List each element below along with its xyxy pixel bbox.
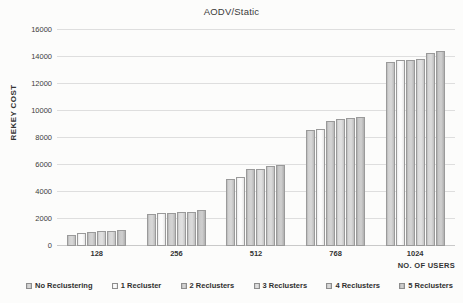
- legend-swatch-icon: [112, 283, 118, 289]
- bar[interactable]: [386, 62, 395, 246]
- bar[interactable]: [97, 231, 106, 246]
- bar[interactable]: [147, 214, 156, 246]
- bar[interactable]: [326, 121, 335, 246]
- bar[interactable]: [236, 177, 245, 246]
- legend-item[interactable]: 1 Recluster: [112, 281, 161, 290]
- legend-swatch-icon: [326, 283, 332, 289]
- bar[interactable]: [256, 169, 265, 246]
- plot-area: 0200040006000800010000120001400016000: [57, 30, 455, 246]
- y-axis-title: REKEY COST: [9, 73, 18, 153]
- bar[interactable]: [316, 129, 325, 246]
- legend-item[interactable]: 3 Reclusters: [254, 281, 308, 290]
- bar[interactable]: [117, 230, 126, 246]
- bar[interactable]: [246, 169, 255, 246]
- y-axis-tick-label: 14000: [31, 52, 52, 61]
- y-axis-tick-label: 4000: [35, 187, 52, 196]
- legend-label: 2 Reclusters: [190, 281, 235, 290]
- y-axis-tick-label: 0: [48, 241, 52, 250]
- chart-title: AODV/Static: [0, 6, 463, 17]
- legend-swatch-icon: [254, 283, 260, 289]
- bar-group-256: [137, 30, 217, 246]
- y-axis-tick-label: 6000: [35, 160, 52, 169]
- x-axis-tick-label: 128: [57, 249, 137, 258]
- bar[interactable]: [187, 212, 196, 246]
- bar[interactable]: [177, 212, 186, 246]
- bar[interactable]: [77, 233, 86, 246]
- bar[interactable]: [197, 210, 206, 246]
- legend-label: No Reclustering: [35, 281, 93, 290]
- x-axis-tick-labels: 1282565127681024: [57, 249, 455, 258]
- y-axis-tick-label: 12000: [31, 79, 52, 88]
- legend-item[interactable]: No Reclustering: [26, 281, 93, 290]
- bar[interactable]: [436, 51, 445, 246]
- bar-group-128: [57, 30, 137, 246]
- chart-container: AODV/Static REKEY COST 02000400060008000…: [0, 0, 463, 303]
- bar[interactable]: [167, 213, 176, 246]
- y-axis-tick-label: 10000: [31, 106, 52, 115]
- bar-group-768: [296, 30, 376, 246]
- legend-label: 1 Recluster: [121, 281, 161, 290]
- bar-group-1024: [375, 30, 455, 246]
- legend-label: 5 Reclusters: [408, 281, 453, 290]
- bar[interactable]: [416, 59, 425, 246]
- bar[interactable]: [107, 231, 116, 246]
- bar[interactable]: [226, 179, 235, 246]
- legend-swatch-icon: [26, 283, 32, 289]
- x-axis-title: NO. OF USERS: [398, 261, 455, 270]
- bar[interactable]: [346, 118, 355, 246]
- legend-item[interactable]: 5 Reclusters: [399, 281, 453, 290]
- legend-swatch-icon: [181, 283, 187, 289]
- y-axis-tick-label: 16000: [31, 25, 52, 34]
- y-axis-tick-label: 8000: [35, 133, 52, 142]
- y-axis-tick-label: 2000: [35, 214, 52, 223]
- bar[interactable]: [406, 60, 415, 246]
- bar[interactable]: [426, 53, 435, 246]
- bar[interactable]: [336, 119, 345, 246]
- bar-group-512: [216, 30, 296, 246]
- bar[interactable]: [356, 117, 365, 246]
- x-axis-tick-label: 768: [296, 249, 376, 258]
- x-axis-tick-label: 1024: [375, 249, 455, 258]
- bar[interactable]: [266, 166, 275, 246]
- bar[interactable]: [67, 235, 76, 246]
- legend-label: 3 Reclusters: [263, 281, 308, 290]
- legend-label: 4 Reclusters: [335, 281, 380, 290]
- x-axis-tick-label: 256: [137, 249, 217, 258]
- bar[interactable]: [396, 60, 405, 246]
- legend-item[interactable]: 2 Reclusters: [181, 281, 235, 290]
- bars-layer: [57, 30, 455, 246]
- legend-swatch-icon: [399, 283, 405, 289]
- bar[interactable]: [306, 130, 315, 246]
- x-axis-tick-label: 512: [216, 249, 296, 258]
- legend-item[interactable]: 4 Reclusters: [326, 281, 380, 290]
- chart-legend: No Reclustering1 Recluster2 Reclusters3 …: [26, 281, 453, 290]
- bar[interactable]: [157, 213, 166, 246]
- bar[interactable]: [87, 232, 96, 246]
- bar[interactable]: [276, 165, 285, 246]
